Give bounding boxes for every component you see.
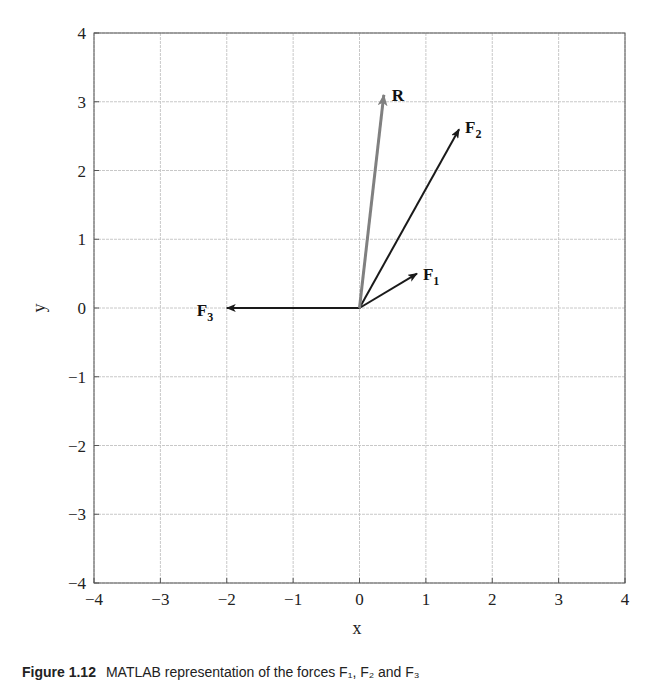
y-tick-label: 1	[78, 230, 87, 249]
x-tick-label: 3	[554, 590, 563, 609]
x-tick-label: −4	[85, 590, 104, 609]
y-tick-label: 2	[78, 162, 87, 181]
figure-number: Figure 1.12	[22, 664, 96, 680]
x-axis-label: x	[353, 618, 362, 638]
vector-label-f2: F2	[465, 118, 481, 141]
x-tick-label: 2	[488, 590, 497, 609]
y-axis-label: y	[29, 304, 49, 313]
x-tick-label: 1	[422, 590, 431, 609]
caption-text: MATLAB representation of the forces F₁, …	[106, 664, 420, 680]
y-tick-label: −4	[68, 574, 87, 593]
vector-label-f1: F1	[423, 265, 439, 288]
y-tick-label: 0	[78, 299, 87, 318]
x-tick-label: −3	[151, 590, 169, 609]
x-tick-label: 0	[355, 590, 364, 609]
force-vectors: F1F2F3R	[197, 86, 482, 324]
y-tick-label: −3	[68, 505, 86, 524]
vector-r	[360, 95, 384, 308]
vector-label-r: R	[392, 86, 405, 105]
x-tick-label: −1	[284, 590, 302, 609]
y-tick-label: −2	[68, 437, 86, 456]
vector-label-f3: F3	[197, 301, 213, 324]
y-tick-label: 3	[78, 93, 87, 112]
y-tick-label: 4	[78, 24, 87, 43]
x-tick-label: 4	[621, 590, 630, 609]
y-tick-label: −1	[68, 368, 86, 387]
x-tick-label: −2	[218, 590, 236, 609]
vector-f2	[360, 129, 460, 308]
figure-caption: Figure 1.12MATLAB representation of the …	[22, 664, 420, 680]
